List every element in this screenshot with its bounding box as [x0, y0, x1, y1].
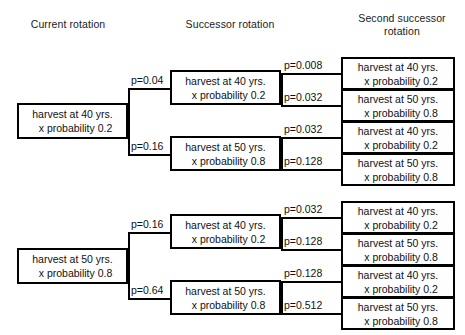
probability-label-bottom-b2: p=0.512 [283, 299, 323, 311]
column-header-successor-rotation: Successor rotation [160, 18, 300, 31]
connector-leaf-top-a2 [281, 105, 341, 107]
column-header-second-successor-rotation: Second successor rotation [340, 12, 464, 38]
connector-branch-bottom-b [128, 298, 171, 300]
node-line-2: x probability 0.2 [33, 121, 113, 135]
probability-label-top-a: p=0.04 [130, 74, 164, 86]
node-line-1: harvest at 40 yrs. [358, 204, 439, 218]
node-bottom-terminal-1: harvest at 40 yrs. x probability 0.2 [341, 201, 455, 234]
node-line-2: x probability 0.8 [358, 106, 438, 120]
node-line-1: harvest at 40 yrs. [358, 268, 439, 282]
node-line-2: x probability 0.8 [186, 298, 266, 312]
node-line-1: harvest at 40 yrs. [358, 60, 439, 74]
node-top-root: harvest at 40 yrs. x probability 0.2 [17, 103, 128, 139]
node-bottom-terminal-2: harvest at 50 yrs. x probability 0.8 [341, 233, 455, 266]
connector-branch-bottom-a [128, 232, 171, 234]
probability-label-bottom-b1: p=0.128 [283, 267, 323, 279]
node-bottom-successor-a: harvest at 40 yrs. x probability 0.2 [170, 214, 281, 249]
node-line-1: harvest at 50 yrs. [185, 284, 266, 298]
connector-leaf-bottom-b1 [281, 281, 341, 283]
connector-leaf-top-a1 [281, 73, 341, 75]
node-line-1: harvest at 40 yrs. [358, 124, 439, 138]
probability-label-top-a2: p=0.032 [283, 91, 323, 103]
node-line-2: x probability 0.2 [358, 138, 438, 152]
node-top-terminal-3: harvest at 40 yrs. x probability 0.2 [341, 121, 455, 154]
node-line-2: x probability 0.2 [358, 282, 438, 296]
node-line-2: x probability 0.2 [358, 74, 438, 88]
connector-leaf-top-b1 [281, 137, 341, 139]
probability-label-top-b: p=0.16 [130, 140, 164, 152]
node-line-2: x probability 0.8 [358, 250, 438, 264]
node-line-2: x probability 0.8 [358, 170, 438, 184]
node-top-terminal-2: harvest at 50 yrs. x probability 0.8 [341, 89, 455, 122]
probability-label-top-b2: p=0.128 [283, 155, 323, 167]
connector-branch-top-a [128, 88, 171, 90]
node-top-terminal-4: harvest at 50 yrs. x probability 0.8 [341, 153, 455, 186]
node-line-1: harvest at 50 yrs. [358, 156, 439, 170]
node-line-1: harvest at 50 yrs. [358, 300, 439, 314]
node-top-successor-a: harvest at 40 yrs. x probability 0.2 [170, 70, 281, 105]
node-line-1: harvest at 40 yrs. [185, 218, 266, 232]
node-top-terminal-1: harvest at 40 yrs. x probability 0.2 [341, 57, 455, 90]
node-line-1: harvest at 50 yrs. [185, 140, 266, 154]
node-bottom-root: harvest at 50 yrs. x probability 0.8 [17, 248, 128, 284]
probability-label-top-a1: p=0.008 [283, 59, 323, 71]
node-line-1: harvest at 40 yrs. [32, 107, 113, 121]
node-line-1: harvest at 50 yrs. [358, 92, 439, 106]
node-bottom-terminal-4: harvest at 50 yrs. x probability 0.8 [341, 297, 455, 330]
node-top-successor-b: harvest at 50 yrs. x probability 0.8 [170, 136, 281, 171]
node-line-2: x probability 0.8 [358, 314, 438, 328]
probability-label-bottom-a1: p=0.032 [283, 203, 323, 215]
node-line-1: harvest at 50 yrs. [32, 252, 113, 266]
node-line-1: harvest at 50 yrs. [358, 236, 439, 250]
probability-label-bottom-a: p=0.16 [130, 218, 164, 230]
connector-leaf-bottom-b2 [281, 313, 341, 315]
probability-label-bottom-b: p=0.64 [130, 284, 164, 296]
decision-tree-diagram: Current rotation Successor rotation Seco… [0, 0, 465, 335]
connector-leaf-bottom-a1 [281, 217, 341, 219]
node-line-2: x probability 0.2 [358, 218, 438, 232]
node-line-1: harvest at 40 yrs. [185, 74, 266, 88]
node-line-2: x probability 0.2 [186, 232, 266, 246]
node-line-2: x probability 0.8 [33, 266, 113, 280]
node-line-2: x probability 0.8 [186, 154, 266, 168]
node-line-2: x probability 0.2 [186, 88, 266, 102]
connector-leaf-top-b2 [281, 169, 341, 171]
connector-leaf-bottom-a2 [281, 249, 341, 251]
column-header-current-rotation: Current rotation [8, 18, 128, 31]
probability-label-bottom-a2: p=0.128 [283, 235, 323, 247]
probability-label-top-b1: p=0.032 [283, 123, 323, 135]
node-bottom-successor-b: harvest at 50 yrs. x probability 0.8 [170, 280, 281, 315]
node-bottom-terminal-3: harvest at 40 yrs. x probability 0.2 [341, 265, 455, 298]
connector-branch-top-b [128, 154, 171, 156]
